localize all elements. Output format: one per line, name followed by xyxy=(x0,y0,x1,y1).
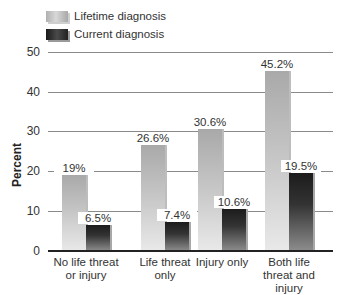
gridline-50 xyxy=(48,52,333,53)
value-label-current: 10.6% xyxy=(214,196,254,208)
value-label-current: 19.5% xyxy=(281,160,321,172)
x-axis-line xyxy=(48,250,333,252)
y-tick-50: 50 xyxy=(10,45,40,59)
value-label-lifetime: 26.6% xyxy=(133,132,173,144)
value-label-current: 6.5% xyxy=(78,212,118,224)
bar-lifetime xyxy=(198,129,222,251)
y-tick-40: 40 xyxy=(10,85,40,99)
y-tick-10: 10 xyxy=(10,204,40,218)
y-tick-30: 30 xyxy=(10,124,40,138)
y-tick-0: 0 xyxy=(10,244,40,258)
bar-current xyxy=(222,209,246,251)
legend-item-current: Current diagnosis xyxy=(46,27,164,41)
gridline-30 xyxy=(48,131,333,132)
value-label-lifetime: 45.2% xyxy=(257,58,297,70)
x-label-both: Both life threat and injury xyxy=(249,256,329,295)
value-label-lifetime: 30.6% xyxy=(190,116,230,128)
y-tick-20: 20 xyxy=(10,164,40,178)
bar-current xyxy=(289,173,313,251)
gridline-40 xyxy=(48,92,333,93)
bar-current xyxy=(86,225,110,251)
bar-current xyxy=(165,222,189,251)
legend-swatch-current xyxy=(46,29,68,40)
value-label-lifetime: 19% xyxy=(54,162,94,174)
legend-label-lifetime: Lifetime diagnosis xyxy=(74,10,166,22)
legend-item-lifetime: Lifetime diagnosis xyxy=(46,9,166,23)
value-label-current: 7.4% xyxy=(157,209,197,221)
legend-swatch-lifetime xyxy=(46,11,68,22)
legend-label-current: Current diagnosis xyxy=(74,28,164,40)
bar-lifetime xyxy=(141,145,165,251)
x-label-no-threat: No life threat or injury xyxy=(46,256,126,282)
